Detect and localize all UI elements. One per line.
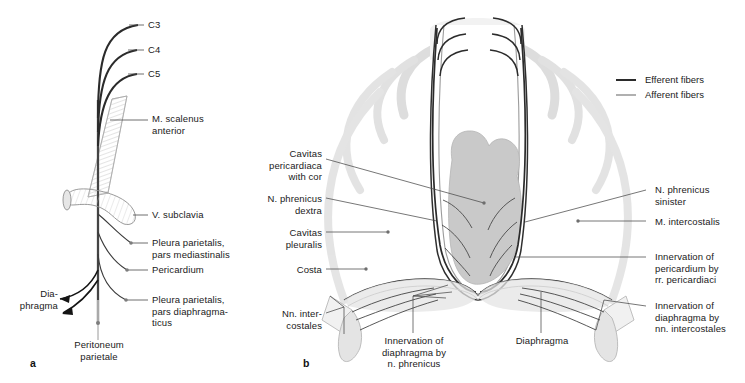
label-n-phrenicus-dextra: N. phrenicus dextra [222,193,322,216]
panel-a-leader-lines [110,25,148,300]
branch-pleura-diaphragmatica [98,254,126,300]
label-pericardium: Pericardium [152,264,204,276]
legend-label-afferent: Afferent fibers [645,89,704,101]
label-n-phrenicus-sinister: N. phrenicus sinister [655,184,710,207]
label-innervation-diaphragma-intercostales: Innervation of diaphragma by nn. interco… [655,300,726,335]
branch-pericardium [98,232,127,270]
anatomical-figure: Efferent fibers Afferent fibers C3 C4 C5… [0,0,745,383]
diaphragma-arrows [60,270,98,315]
label-cavitas-pericardiaca: Cavitas pericardiaca with cor [222,148,322,183]
label-diaphragma-a: Dia- phragma [0,288,58,311]
label-pleura-parietalis-mediastinalis: Pleura parietalis, pars mediastinalis [152,237,230,260]
label-c3: C3 [148,19,160,31]
marker-peritoneum [96,321,100,325]
legend-swatches [616,80,636,95]
label-innervation-diaphragma-phrenicus: Innervation of diaphragma by n. phrenicu… [360,335,468,370]
panel-b-illustration [322,18,646,362]
label-cavitas-pleuralis: Cavitas pleuralis [222,227,322,250]
legend-label-efferent: Efferent fibers [645,74,704,86]
panel-letter-b: b [303,357,309,369]
label-pleura-parietalis-diaphragmaticus: Pleura parietalis, pars diaphragma- ticu… [152,294,228,329]
label-innervation-pericardium: Innervation of pericardium by rr. perica… [655,251,719,286]
label-v-subclavia: V. subclavia [152,209,204,221]
label-nn-intercostales: Nn. inter- costales [222,308,322,331]
panel-a-illustration [58,25,148,340]
label-m-intercostalis: M. intercostalis [655,216,720,228]
panel-letter-a: a [30,357,36,369]
label-c5: C5 [148,68,160,80]
label-m-scalenus-anterior: M. scalenus anterior [152,113,204,136]
label-peritoneum-parietale: Peritoneum parietale [56,339,142,362]
m-scalenus-anterior-shape [88,96,127,197]
label-costa: Costa [222,264,322,276]
illustration-svg [0,0,745,383]
label-c4: C4 [148,44,160,56]
cor-heart-shape [449,131,522,284]
label-diaphragma-b: Diaphragma [497,335,587,347]
